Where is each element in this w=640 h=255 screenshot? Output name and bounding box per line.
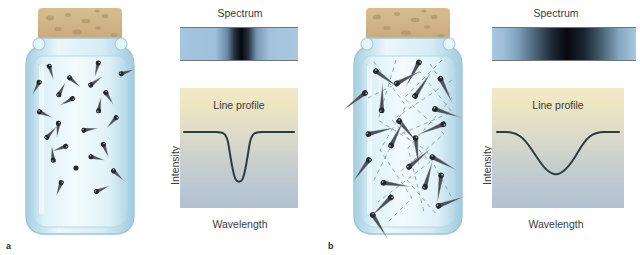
analysis-column-b: Spectrum: [476, 0, 636, 255]
jar-illustration-b: [334, 2, 482, 244]
figure-doppler-broadening: Spectrum: [0, 0, 640, 255]
spectrum-title-b: Spectrum: [476, 7, 636, 19]
analysis-column-a: Spectrum: [158, 0, 318, 255]
panel-a: Spectrum: [0, 0, 320, 255]
spectrum-band-b: [492, 27, 636, 61]
panel-b: Spectrum: [320, 0, 640, 255]
x-axis-label-b: Wavelength: [476, 218, 636, 230]
spectrum-title-a: Spectrum: [160, 7, 320, 19]
spectrum-band-a: [180, 27, 298, 61]
line-profile-curve-a: [184, 132, 294, 182]
panel-label-b: b: [328, 241, 334, 251]
x-axis-label-a: Wavelength: [160, 218, 320, 230]
panel-label-a: a: [6, 241, 11, 251]
line-profile-plot-a: Line profile: [180, 88, 298, 208]
line-profile-plot-b: Line profile: [492, 88, 624, 208]
jar-illustration-a: [6, 2, 154, 244]
line-profile-curve-b: [497, 132, 619, 174]
